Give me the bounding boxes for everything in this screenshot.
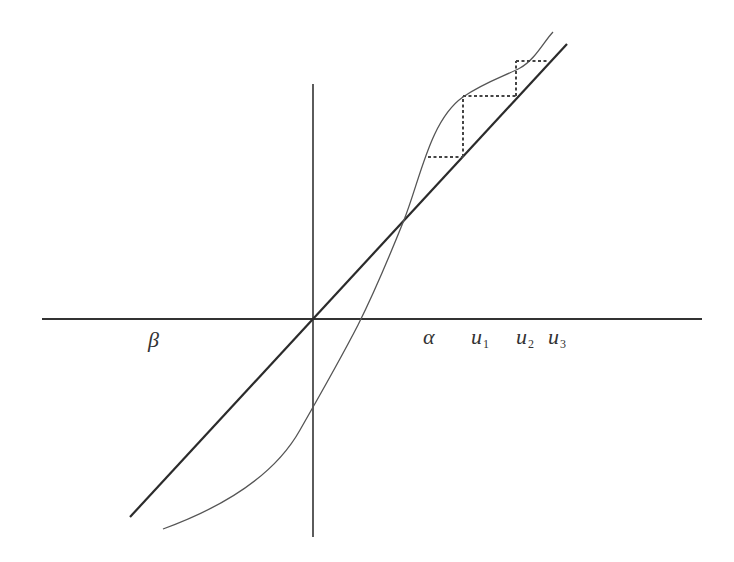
u3-symbol: u xyxy=(548,324,559,349)
beta-symbol: β xyxy=(148,327,159,352)
u1-subscript: 1 xyxy=(483,337,489,351)
u2-subscript: 2 xyxy=(528,337,534,351)
label-alpha: α xyxy=(423,326,435,348)
cobweb-iterations xyxy=(428,61,549,157)
label-u2: u2 xyxy=(516,326,534,350)
cobweb-diagram xyxy=(0,0,734,562)
label-u1: u1 xyxy=(471,326,489,350)
u3-subscript: 3 xyxy=(560,337,566,351)
label-u3: u3 xyxy=(548,326,566,350)
label-beta: β xyxy=(148,329,159,351)
alpha-symbol: α xyxy=(423,324,435,349)
identity-line xyxy=(130,44,567,517)
u2-symbol: u xyxy=(516,324,527,349)
u1-symbol: u xyxy=(471,324,482,349)
function-curve xyxy=(163,32,553,529)
